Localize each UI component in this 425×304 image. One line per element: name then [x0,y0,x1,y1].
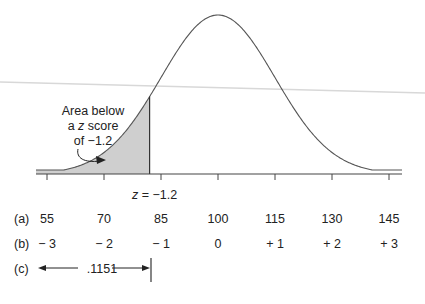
arrow-right-icon [142,265,150,271]
annotation-line1: Area below [62,104,126,118]
annotation-line3: of −1.2 [74,134,113,148]
z-marker-label: z = −1.2 [131,188,177,202]
raw-score-label: 55 [40,212,54,226]
arrow-left-icon [38,265,46,271]
raw-score-label: 145 [379,212,400,226]
annotation-line2: a z score [68,119,119,133]
raw-score-label: 85 [154,212,168,226]
raw-score-label: 100 [208,212,229,226]
raw-score-label: 70 [97,212,111,226]
row-a-label: (a) [14,212,29,226]
area-value: .1151 [87,262,117,276]
z-score-label: 0 [215,237,222,251]
raw-score-label: 130 [322,212,343,226]
z-score-label: + 1 [266,237,284,251]
raw-score-label: 115 [265,212,285,226]
z-score-label: + 2 [323,237,341,251]
row-b-label: (b) [14,237,29,251]
z-score-label: − 3 [38,237,56,251]
row-a-raw-scores: 557085100115130145 [40,212,399,226]
row-b-z-scores: − 3− 2− 10+ 1+ 2+ 3 [38,237,398,251]
z-score-label: + 3 [380,237,398,251]
x-axis-ticks [47,174,389,180]
z-score-label: − 1 [152,237,170,251]
row-c-label: (c) [14,262,29,276]
scan-artifact-line [0,82,425,93]
normal-curve-diagram: Area below a z score of −1.2 z = −1.2 (a… [0,0,425,304]
z-score-label: − 2 [95,237,113,251]
